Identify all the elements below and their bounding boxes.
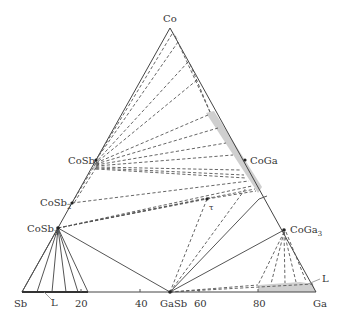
phase-label-cosb3: CoSb3 bbox=[27, 223, 58, 237]
axis-tick-40: 40 bbox=[135, 298, 148, 309]
corner-label-co: Co bbox=[163, 13, 177, 24]
liquid-label-ga-side: L bbox=[322, 273, 329, 284]
phase-label-gasb: GaSb bbox=[160, 298, 187, 309]
axis-tick-80: 80 bbox=[253, 298, 266, 309]
corner-label-sb: Sb bbox=[14, 298, 27, 309]
diagram-canvas: Co Sb Ga CoSb CoSb2 CoSb3 CoGa CoGa3 GaS… bbox=[0, 0, 349, 327]
coga-point bbox=[243, 158, 246, 161]
cosb3-liquid-tielines bbox=[22, 228, 88, 292]
axis-tick-60: 60 bbox=[194, 298, 207, 309]
cosb2-cosb3-dashed-tielines bbox=[58, 181, 256, 292]
gasb-point bbox=[168, 290, 172, 294]
coga3-point bbox=[282, 228, 286, 232]
phase-label-coga3: CoGa3 bbox=[290, 224, 322, 238]
phase-label-cosb2: CoSb2 bbox=[40, 197, 71, 211]
phase-label-tau: τ bbox=[209, 203, 214, 212]
tau-point bbox=[205, 197, 208, 200]
axis-tick-20: 20 bbox=[75, 298, 88, 309]
corner-label-ga: Ga bbox=[313, 298, 327, 309]
liquid-label-sb-side: L bbox=[51, 297, 58, 308]
phase-label-cosb: CoSb bbox=[68, 155, 95, 166]
ternary-diagram: Co Sb Ga CoSb CoSb2 CoSb3 CoGa CoGa3 GaS… bbox=[0, 0, 349, 327]
coga-homogeneity-region bbox=[206, 111, 262, 193]
phase-label-coga: CoGa bbox=[250, 155, 278, 166]
solid-tielines bbox=[58, 196, 284, 292]
co-sb-edge-dashed bbox=[72, 163, 99, 203]
co-corner-dashed-tielines bbox=[96, 34, 210, 163]
ga-rich-liquid-region bbox=[258, 282, 316, 292]
